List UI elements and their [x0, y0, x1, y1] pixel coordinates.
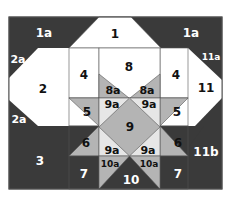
- label-2a-bottom: 2a: [11, 113, 26, 126]
- label-10a-right: 10a: [140, 159, 159, 169]
- label-9: 9: [126, 120, 134, 134]
- label-9a-bl: 9a: [104, 144, 119, 157]
- label-8: 8: [125, 60, 133, 74]
- label-11b: 11b: [193, 145, 219, 159]
- quilt-block-diagram: 1a 1 1a 2a 2 2a 3 4 4 8 8a 8a 5 5 9a 9a …: [0, 0, 232, 199]
- label-6-left: 6: [82, 136, 90, 150]
- label-1a-left: 1a: [36, 26, 52, 40]
- label-8a-left: 8a: [105, 84, 120, 97]
- label-9a-tl: 9a: [104, 98, 119, 111]
- label-5-left: 5: [83, 105, 91, 119]
- label-5-right: 5: [173, 105, 181, 119]
- label-3: 3: [36, 154, 44, 168]
- label-8a-right: 8a: [139, 84, 154, 97]
- label-4-right: 4: [172, 68, 180, 82]
- label-2: 2: [39, 82, 47, 96]
- label-1: 1: [111, 27, 119, 41]
- label-11: 11: [198, 81, 215, 95]
- label-9a-tr: 9a: [141, 98, 156, 111]
- label-1a-right: 1a: [183, 26, 199, 40]
- label-10: 10: [123, 173, 140, 187]
- label-6-right: 6: [174, 136, 182, 150]
- label-7-right: 7: [174, 167, 182, 181]
- label-7-left: 7: [80, 167, 88, 181]
- label-9a-br: 9a: [140, 144, 155, 157]
- label-11a: 11a: [202, 52, 221, 62]
- label-4-left: 4: [80, 68, 88, 82]
- label-10a-left: 10a: [101, 159, 120, 169]
- label-2a-top: 2a: [10, 53, 25, 66]
